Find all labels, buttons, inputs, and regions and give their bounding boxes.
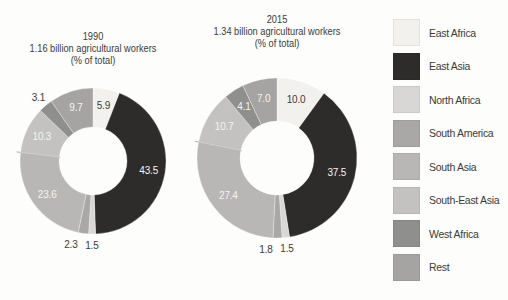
legend-item-west-africa: West Africa	[393, 220, 499, 247]
slice-label-north-africa: 1.5	[280, 243, 294, 253]
legend-label-east-asia: East Asia	[429, 60, 470, 72]
slice-label-east-africa: 5.9	[97, 100, 111, 111]
legend-swatch-east-africa	[393, 19, 420, 46]
legend-swatch-north-africa	[393, 86, 420, 113]
chart-note-1990: (% of total)	[13, 54, 173, 66]
legend-item-east-africa: East Africa	[393, 19, 499, 46]
legend-label-rest: Rest	[429, 261, 449, 273]
legend-swatch-south-america	[393, 120, 420, 147]
legend-swatch-west-africa	[393, 220, 420, 247]
slice-label-west-africa: 3.1	[32, 92, 46, 103]
slice-label-south-america: 2.3	[64, 239, 78, 250]
donut-chart-2015: 10.037.51.51.827.410.74.17.0	[182, 63, 372, 253]
legend: East AfricaEast AsiaNorth AfricaSouth Am…	[393, 19, 499, 287]
slice-label-rest: 7.0	[257, 93, 271, 104]
slice-label-south-east-asia: 10.3	[33, 131, 52, 142]
slice-label-east-asia: 43.5	[139, 165, 158, 176]
slice-label-north-africa: 1.5	[85, 240, 99, 251]
legend-item-east-asia: East Asia	[393, 53, 499, 80]
chart-title-2015: 2015 1.34 billion agricultural workers (…	[197, 13, 357, 49]
chart-year-2015: 2015	[197, 13, 357, 25]
donut-chart-1990: 5.943.51.52.323.610.33.19.7	[0, 66, 188, 256]
slice-label-south-america: 1.8	[259, 244, 273, 254]
legend-label-south-east-asia: South-East Asia	[429, 194, 499, 206]
chart-subtitle-2015: 1.34 billion agricultural workers	[197, 25, 357, 37]
legend-item-north-africa: North Africa	[393, 86, 499, 113]
chart-subtitle-1990: 1.16 billion agricultural workers	[13, 42, 173, 54]
legend-item-south-east-asia: South-East Asia	[393, 187, 499, 214]
legend-swatch-east-asia	[393, 53, 420, 80]
legend-item-south-america: South America	[393, 120, 499, 147]
slice-label-south-asia: 23.6	[38, 189, 57, 200]
legend-swatch-south-east-asia	[393, 187, 420, 214]
legend-swatch-rest	[393, 254, 420, 281]
legend-label-west-africa: West Africa	[429, 228, 479, 240]
chart-title-1990: 1990 1.16 billion agricultural workers (…	[13, 30, 173, 66]
legend-label-north-africa: North Africa	[429, 94, 480, 106]
slice-label-south-east-asia: 10.7	[215, 121, 234, 132]
slice-label-rest: 9.7	[69, 102, 83, 113]
slice-label-south-asia: 27.4	[219, 190, 238, 201]
slice-label-west-africa: 4.1	[237, 101, 251, 112]
legend-swatch-south-asia	[393, 153, 420, 180]
legend-label-east-africa: East Africa	[429, 27, 476, 39]
chart-year-1990: 1990	[13, 30, 173, 42]
slice-label-east-africa: 10.0	[287, 94, 306, 105]
chart-note-2015: (% of total)	[197, 37, 357, 49]
legend-item-rest: Rest	[393, 254, 499, 281]
figure-agricultural-workers: 1990 1.16 billion agricultural workers (…	[0, 0, 508, 300]
legend-item-south-asia: South Asia	[393, 153, 499, 180]
legend-label-south-america: South America	[429, 127, 493, 139]
slice-label-east-asia: 37.5	[327, 167, 346, 178]
legend-label-south-asia: South Asia	[429, 161, 476, 173]
